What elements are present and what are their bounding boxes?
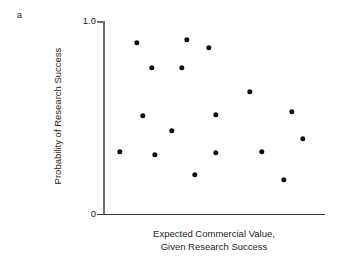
data-point	[117, 149, 122, 154]
data-point	[179, 65, 184, 70]
y-tick-label-bottom: 0	[72, 209, 96, 219]
data-point	[213, 112, 218, 117]
scatter-plot-figure: a Probability of Research Success 1.0 0 …	[0, 0, 345, 264]
data-point	[134, 40, 139, 45]
data-point	[169, 128, 174, 133]
data-point	[140, 113, 145, 118]
data-point	[152, 152, 157, 157]
data-point	[247, 89, 252, 94]
data-point	[184, 37, 189, 42]
data-point	[300, 136, 305, 141]
y-axis-label: Probability of Research Success	[52, 20, 64, 212]
data-point	[149, 65, 154, 70]
data-point	[192, 172, 197, 177]
x-axis-label: Expected Commercial Value, Given Researc…	[103, 228, 325, 253]
data-point	[213, 150, 218, 155]
data-point	[206, 45, 211, 50]
y-tick-label-top: 1.0	[72, 16, 96, 26]
data-point	[259, 149, 264, 154]
x-axis-label-line-1: Expected Commercial Value,	[153, 228, 275, 239]
data-point	[289, 109, 294, 114]
plot-area	[103, 21, 325, 214]
panel-label: a	[17, 11, 22, 20]
data-point	[281, 177, 286, 182]
x-axis-label-line-2: Given Research Success	[103, 241, 325, 254]
